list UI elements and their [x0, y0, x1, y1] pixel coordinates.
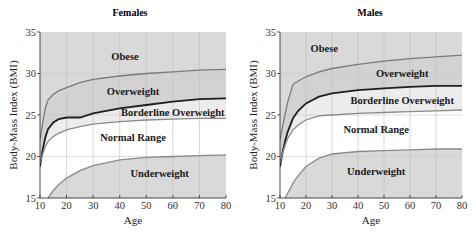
region-label-obese: Obese: [111, 51, 139, 62]
x-tick-label: 80: [457, 200, 468, 211]
x-tick-label: 10: [275, 200, 286, 211]
region-label-obese: Obese: [310, 43, 338, 54]
y-tick-label: 20: [266, 151, 277, 162]
y-tick-label: 25: [266, 110, 277, 121]
y-tick-label: 30: [26, 68, 37, 79]
y-tick-label: 20: [26, 151, 37, 162]
region-label-overweight: Overweight: [107, 86, 160, 97]
x-axis-label: Age: [124, 214, 142, 226]
y-tick-label: 30: [266, 68, 277, 79]
region-label-underweight: Underweight: [347, 166, 406, 177]
chart-title: Males: [357, 7, 383, 18]
x-tick-label: 20: [301, 200, 312, 211]
x-tick-label: 30: [327, 200, 338, 211]
y-axis-label: Body-Mass Index (BMI): [247, 60, 260, 170]
x-tick-label: 80: [221, 200, 232, 211]
x-tick-label: 10: [35, 200, 46, 211]
region-label-normal-range: Normal Range: [343, 124, 409, 135]
region-label-normal-range: Normal Range: [100, 132, 166, 143]
x-tick-label: 50: [379, 200, 390, 211]
x-tick-label: 60: [168, 200, 179, 211]
x-tick-label: 60: [405, 200, 416, 211]
region-label-borderline-overweight: Borderline Overweight: [121, 107, 225, 118]
chart-title: Females: [113, 7, 148, 18]
x-tick-label: 30: [88, 200, 99, 211]
x-axis-label: Age: [362, 214, 380, 226]
y-tick-label: 35: [26, 27, 37, 38]
x-tick-label: 50: [141, 200, 152, 211]
region-label-overweight: Overweight: [376, 68, 429, 79]
x-tick-label: 40: [353, 200, 364, 211]
x-tick-label: 70: [431, 200, 442, 211]
x-tick-label: 70: [194, 200, 205, 211]
region-label-underweight: Underweight: [130, 168, 189, 179]
chart-females: 15202530351020304050607080FemalesAgeBody…: [7, 7, 239, 236]
bmi-charts-figure: 15202530351020304050607080FemalesAgeBody…: [0, 0, 476, 236]
y-tick-label: 35: [266, 27, 277, 38]
x-tick-label: 20: [61, 200, 72, 211]
y-axis-label: Body-Mass Index (BMI): [7, 60, 20, 170]
x-tick-label: 40: [114, 200, 125, 211]
y-tick-label: 25: [26, 110, 37, 121]
region-label-borderline-overweight: Borderline Overweight: [350, 95, 454, 106]
chart-males: 15202530351020304050607080MalesAgeBody-M…: [247, 7, 475, 236]
